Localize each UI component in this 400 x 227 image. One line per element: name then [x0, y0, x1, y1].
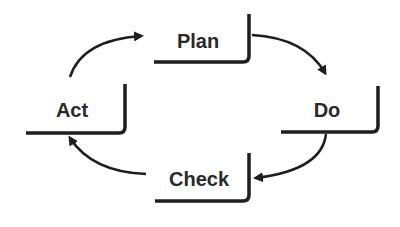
- pdca-diagram: Plan Do Check Act: [0, 0, 400, 227]
- node-do-label: Do: [314, 99, 341, 121]
- node-act-label: Act: [56, 99, 89, 121]
- node-check: Check: [155, 153, 249, 201]
- node-plan: Plan: [154, 14, 249, 62]
- node-check-label: Check: [169, 168, 230, 190]
- arrow-plan-to-do: [252, 35, 325, 73]
- node-plan-label: Plan: [177, 30, 219, 52]
- arrow-do-to-check: [256, 134, 326, 178]
- node-act: Act: [26, 84, 125, 133]
- arrow-check-to-act: [70, 138, 146, 174]
- node-do: Do: [281, 86, 378, 132]
- arrow-act-to-plan: [70, 36, 141, 77]
